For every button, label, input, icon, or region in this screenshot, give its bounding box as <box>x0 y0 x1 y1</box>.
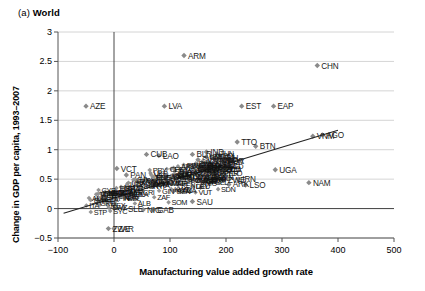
x-tick-label: 500 <box>374 245 414 255</box>
x-tick-label: 400 <box>318 245 358 255</box>
x-tick-label: 0 <box>94 245 134 255</box>
x-tick-label: 200 <box>206 245 246 255</box>
x-tick-label: 300 <box>262 245 302 255</box>
x-tick-labels: −1000100200300400500 <box>0 0 425 291</box>
x-tick-label: 100 <box>150 245 190 255</box>
x-tick-label: −100 <box>38 245 78 255</box>
scatter-chart-figure: (a) World Change in GDP per capita, 1993… <box>0 0 425 291</box>
